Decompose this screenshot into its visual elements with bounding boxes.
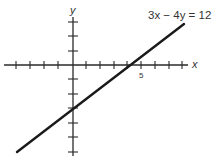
- x-tick-label-5: 5: [139, 71, 144, 80]
- equation-line: [17, 24, 184, 152]
- y-axis-label: y: [69, 4, 77, 16]
- coordinate-graph: x y 5 3x − 4y = 12: [0, 0, 216, 160]
- equation-label: 3x − 4y = 12: [148, 9, 211, 21]
- x-axis-label: x: [191, 58, 198, 70]
